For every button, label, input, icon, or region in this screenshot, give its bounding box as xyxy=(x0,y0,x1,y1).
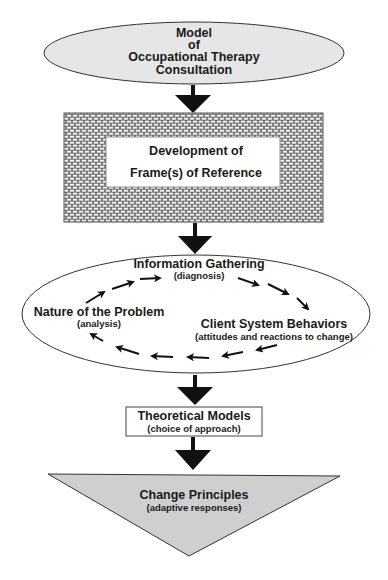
models-sub: (choice of approach) xyxy=(126,424,262,434)
title-line-4: Consultation xyxy=(134,64,254,77)
cycle-node-nature-label: Nature of the Problem xyxy=(24,306,174,319)
principles-label: Change Principles xyxy=(114,489,274,502)
cycle-arrow-icon xyxy=(152,356,173,357)
title-line-3: Occupational Therapy xyxy=(114,51,274,64)
arrow-down-icon xyxy=(178,223,212,254)
cycle-node-info-label: Information Gathering xyxy=(124,258,274,271)
arrow-down-icon xyxy=(175,85,211,113)
principles-triangle xyxy=(48,474,340,556)
arrow-down-icon xyxy=(177,375,213,405)
cycle-node-client-sub: (attitudes and reactions to change) xyxy=(184,332,364,342)
frame-line-1: Development of xyxy=(126,145,266,158)
cycle-node-info-sub: (diagnosis) xyxy=(149,271,249,281)
cycle-node-client-label: Client System Behaviors xyxy=(194,318,354,331)
models-label: Theoretical Models xyxy=(126,410,262,423)
cycle-arrow-icon xyxy=(188,357,209,358)
frame-line-2: Frame(s) of Reference xyxy=(116,167,276,180)
cycle-node-nature-sub: (analysis) xyxy=(49,319,149,329)
principles-sub: (adaptive responses) xyxy=(124,503,264,513)
arrow-down-icon xyxy=(175,437,211,470)
